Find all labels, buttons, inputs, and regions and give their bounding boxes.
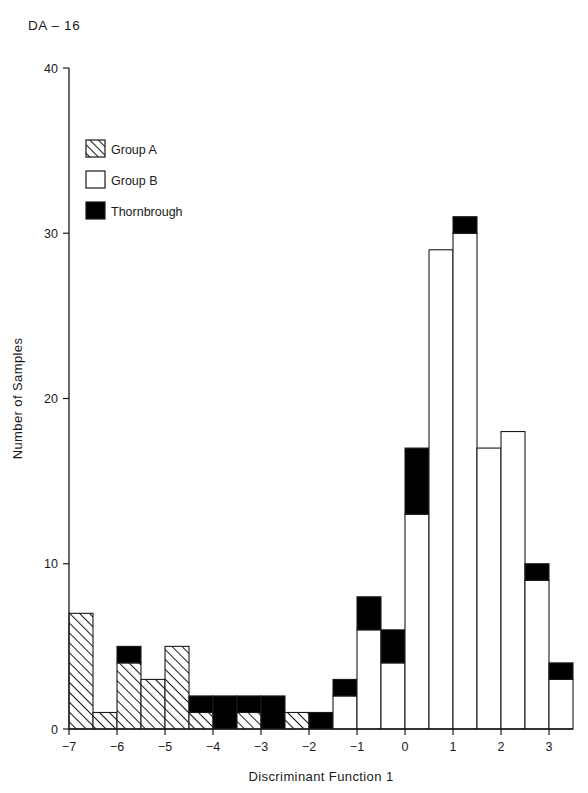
bar-segment-group-b (501, 432, 525, 729)
y-tick: 20 (44, 392, 69, 406)
histogram-bar (237, 696, 261, 729)
y-tick: 30 (44, 227, 69, 241)
legend-label-group_b: Group B (111, 174, 158, 188)
bar-segment-group-b (405, 514, 429, 729)
histogram-bar (261, 696, 285, 729)
histogram-bar (405, 448, 429, 729)
x-tick-label: −5 (158, 740, 172, 754)
histogram-bar (309, 712, 333, 729)
bar-segment-group-a (93, 712, 117, 729)
bar-segment-thornbrough (261, 696, 285, 729)
legend-item-group_b: Group B (86, 171, 158, 188)
bar-segment-thornbrough (189, 696, 213, 713)
histogram-bar (93, 712, 117, 729)
histogram-bar (69, 613, 93, 729)
bar-segment-thornbrough (357, 597, 381, 630)
x-tick: −1 (350, 729, 364, 754)
bar-segment-group-b (381, 663, 405, 729)
legend-label-group_a: Group A (111, 143, 158, 157)
bar-segment-thornbrough (381, 630, 405, 663)
y-tick-label: 0 (51, 723, 58, 737)
y-tick-label: 40 (44, 62, 58, 76)
x-tick: −3 (254, 729, 268, 754)
x-tick: −4 (206, 729, 220, 754)
x-tick: −2 (302, 729, 316, 754)
bars-layer (69, 217, 573, 729)
bar-segment-group-b (357, 630, 381, 729)
legend-item-thornbrough: Thornbrough (86, 202, 183, 219)
x-tick-label: 3 (546, 740, 553, 754)
y-axis-ticks: 010203040 (44, 62, 69, 737)
x-tick: 0 (402, 729, 409, 754)
histogram-bar (189, 696, 213, 729)
y-tick-label: 20 (44, 392, 58, 406)
bar-segment-group-a (69, 613, 93, 729)
y-tick: 10 (44, 557, 69, 571)
x-axis-title: Discriminant Function 1 (248, 769, 393, 784)
x-tick-label: 0 (402, 740, 409, 754)
x-tick: 1 (450, 729, 457, 754)
x-tick: −7 (62, 729, 76, 754)
bar-segment-group-b (525, 580, 549, 729)
x-tick-label: −6 (110, 740, 124, 754)
figure-panel: DA – 16 010203040 −7−6−5−4−3−2−10123 Dis… (0, 0, 588, 793)
y-axis-title: Number of Samples (10, 338, 25, 460)
x-axis-ticks: −7−6−5−4−3−2−10123 (62, 729, 553, 754)
bar-segment-thornbrough (237, 696, 261, 713)
histogram-bar (429, 250, 453, 729)
bar-segment-thornbrough (213, 696, 237, 729)
bar-segment-thornbrough (117, 646, 141, 663)
bar-segment-group-a (141, 679, 165, 729)
bar-segment-thornbrough (453, 217, 477, 234)
histogram-bar (453, 217, 477, 729)
bar-segment-thornbrough (333, 679, 357, 696)
histogram-bar (477, 448, 501, 729)
x-tick-label: −2 (302, 740, 316, 754)
legend-swatch-group_a (86, 140, 105, 157)
y-tick-label: 30 (44, 227, 58, 241)
x-tick: −6 (110, 729, 124, 754)
legend-swatch-thornbrough (86, 202, 105, 219)
bar-segment-group-b (477, 448, 501, 729)
bar-segment-group-a (117, 663, 141, 729)
x-tick-label: −4 (206, 740, 220, 754)
histogram-bar (141, 679, 165, 729)
bar-segment-group-a (285, 712, 309, 729)
histogram-bar (165, 646, 189, 729)
legend-swatch-group_b (86, 171, 105, 188)
x-tick-label: −7 (62, 740, 76, 754)
bar-segment-group-a (189, 712, 213, 729)
bar-segment-group-b (549, 679, 573, 729)
histogram-bar (285, 712, 309, 729)
histogram-bar (333, 679, 357, 729)
histogram-bar (213, 696, 237, 729)
x-tick-label: −3 (254, 740, 268, 754)
x-tick: 3 (546, 729, 553, 754)
histogram-bar (549, 663, 573, 729)
bar-segment-thornbrough (405, 448, 429, 514)
bar-segment-group-b (429, 250, 453, 729)
x-tick: −5 (158, 729, 172, 754)
legend-label-thornbrough: Thornbrough (111, 205, 183, 219)
y-tick: 40 (44, 62, 69, 76)
bar-segment-thornbrough (549, 663, 573, 680)
bar-segment-group-a (165, 646, 189, 729)
histogram-bar (501, 432, 525, 729)
y-tick-label: 10 (44, 557, 58, 571)
histogram-bar (357, 597, 381, 729)
chart-legend: Group AGroup BThornbrough (86, 140, 183, 219)
y-tick: 0 (51, 723, 69, 737)
bar-segment-group-b (453, 233, 477, 729)
histogram-chart: 010203040 −7−6−5−4−3−2−10123 Discriminan… (0, 0, 588, 793)
bar-segment-thornbrough (309, 712, 333, 729)
x-tick-label: 1 (450, 740, 457, 754)
bar-segment-thornbrough (525, 564, 549, 581)
histogram-bar (381, 630, 405, 729)
bar-segment-group-a (237, 712, 261, 729)
bar-segment-group-b (333, 696, 357, 729)
legend-item-group_a: Group A (86, 140, 158, 157)
x-tick-label: 2 (498, 740, 505, 754)
histogram-bar (525, 564, 549, 729)
histogram-bar (117, 646, 141, 729)
x-tick-label: −1 (350, 740, 364, 754)
